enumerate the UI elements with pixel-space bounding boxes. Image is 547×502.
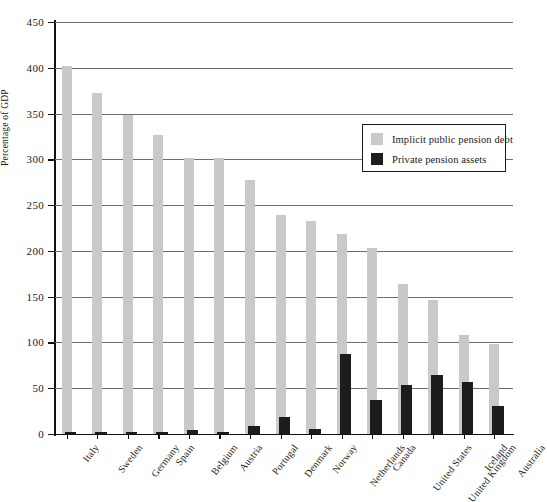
x-axis-tick: [128, 434, 129, 439]
x-axis-label: Belgium: [209, 442, 240, 477]
bar-implicit-public-pension-debt: [62, 66, 72, 434]
y-axis-tick: [48, 388, 54, 389]
y-axis-tick: [48, 114, 54, 115]
y-axis-tick: [48, 297, 54, 298]
y-axis-tick-label: 200: [0, 245, 44, 257]
y-axis-tick-label: 450: [0, 16, 44, 28]
bar-private-pension-assets: [340, 354, 352, 434]
legend-item-implicit-public-pension-debt: Implicit public pension debt: [371, 131, 513, 147]
x-axis-tick: [250, 434, 251, 439]
bar-private-pension-assets: [462, 382, 474, 434]
x-axis-tick: [494, 434, 495, 439]
x-axis-label: Norway: [330, 442, 359, 475]
legend-swatch-icon-series-1: [371, 153, 383, 165]
plot-area: [55, 22, 513, 434]
x-axis-tick: [342, 434, 343, 439]
legend-label-series-0: Implicit public pension debt: [392, 134, 513, 145]
x-axis-tick: [97, 434, 98, 439]
bar-private-pension-assets: [401, 385, 413, 434]
gridline: [55, 68, 513, 69]
y-axis-tick: [48, 22, 54, 23]
y-axis-tick-label: 250: [0, 199, 44, 211]
x-axis-label: United States: [430, 442, 473, 493]
y-axis-title: Percentage of GDP: [0, 6, 14, 166]
x-axis-tick: [219, 434, 220, 439]
y-axis-tick: [48, 251, 54, 252]
y-axis-tick: [48, 159, 54, 160]
y-axis-tick: [48, 434, 54, 435]
y-axis-tick-label: 50: [0, 382, 44, 394]
bar-implicit-public-pension-debt: [214, 158, 224, 434]
legend-item-private-pension-assets: Private pension assets: [371, 151, 486, 167]
x-axis-tick: [464, 434, 465, 439]
bar-implicit-public-pension-debt: [276, 215, 286, 434]
bar-implicit-public-pension-debt: [123, 115, 133, 434]
x-axis-tick: [403, 434, 404, 439]
bar-implicit-public-pension-debt: [245, 180, 255, 435]
chart-legend: Implicit public pension debt Private pen…: [362, 124, 506, 172]
legend-label-series-1: Private pension assets: [392, 154, 486, 165]
bar-implicit-public-pension-debt: [184, 158, 194, 434]
x-axis-label: Denmark: [301, 442, 333, 479]
legend-swatch-icon-series-0: [371, 133, 383, 145]
y-axis-tick: [48, 68, 54, 69]
y-axis-tick-label: 100: [0, 336, 44, 348]
bar-implicit-public-pension-debt: [92, 93, 102, 434]
bar-private-pension-assets: [370, 400, 382, 434]
y-axis-tick-label: 300: [0, 153, 44, 165]
x-axis-label: Austria: [237, 442, 265, 473]
x-axis-tick: [372, 434, 373, 439]
gridline: [55, 22, 513, 23]
bar-implicit-public-pension-debt: [153, 135, 163, 434]
bar-private-pension-assets: [431, 375, 443, 435]
bar-private-pension-assets: [492, 406, 504, 434]
x-axis-label: Sweden: [116, 442, 145, 475]
x-axis-tick: [433, 434, 434, 439]
bar-private-pension-assets: [248, 426, 260, 434]
x-axis-tick: [158, 434, 159, 439]
y-axis-tick-label: 0: [0, 428, 44, 440]
x-axis-label: Australia: [515, 442, 547, 479]
y-axis-tick-label: 150: [0, 291, 44, 303]
x-axis-label: Portugal: [270, 442, 301, 477]
bar-implicit-public-pension-debt: [306, 221, 316, 434]
y-axis-tick-label: 400: [0, 62, 44, 74]
y-axis-tick: [48, 205, 54, 206]
bar-private-pension-assets: [279, 417, 291, 434]
y-axis-tick-label: 350: [0, 108, 44, 120]
x-axis-tick: [189, 434, 190, 439]
y-axis-tick: [48, 342, 54, 343]
x-axis-tick: [281, 434, 282, 439]
x-axis-label: Italy: [80, 442, 101, 464]
x-axis-tick: [67, 434, 68, 439]
x-axis-tick: [311, 434, 312, 439]
